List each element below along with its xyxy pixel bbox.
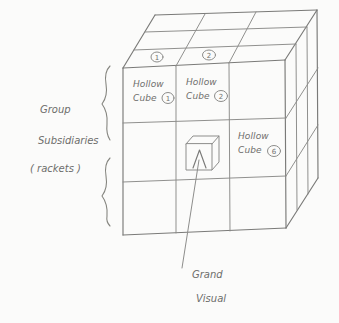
right-hline-2: [286, 125, 318, 176]
cell1-label-line1: Hollow: [133, 79, 164, 89]
bottom-caption-group: Grand Visual: [192, 269, 226, 304]
front-hline-1: [123, 118, 286, 123]
right-bottom-slant: [286, 178, 318, 228]
top-back-edge: [155, 10, 317, 15]
front-top-edge: [123, 60, 285, 68]
bottom-caption-line1: Grand: [192, 269, 223, 280]
right-back-vertical: [317, 10, 318, 178]
cube-sketch-svg: 1 2 Hollow Cube 1 Hollow Cube 2 Hollow C…: [0, 0, 339, 323]
bottom-caption-line2: Visual: [196, 293, 226, 304]
small-cube-right: [212, 136, 219, 170]
front-right-edge: [285, 60, 286, 228]
top-vline-2: [229, 12, 256, 63]
top-face-number-1: 1: [151, 52, 163, 62]
top-right-slant: [285, 10, 317, 60]
cube-right-face: [286, 10, 318, 228]
front-hline-2: [123, 176, 286, 182]
small-cube-front: [186, 144, 212, 170]
front-vline-2: [229, 63, 230, 231]
left-label-line3: ( rackets ): [30, 163, 81, 174]
left-label-line1: Group: [40, 104, 71, 115]
cell1-number: 1: [166, 95, 170, 103]
left-brace-lower: [102, 158, 110, 226]
top-hline-1: [134, 44, 296, 50]
cell6-label-line2: Cube: [238, 145, 262, 155]
cell-label-hollow-cube-2: Hollow Cube 2: [186, 77, 228, 102]
cell1-label-line2: Cube: [133, 93, 157, 103]
top-number-2-text: 2: [207, 52, 211, 60]
front-bottom-edge: [123, 228, 286, 235]
cell-label-hollow-cube-6: Hollow Cube 6: [238, 131, 281, 157]
small-cube-top: [186, 136, 219, 144]
small-cube-with-arrow-icon: [186, 136, 219, 170]
right-hline-1: [286, 68, 318, 118]
leader-line: [182, 160, 199, 268]
top-left-slant: [123, 15, 155, 68]
cell2-number: 2: [219, 93, 223, 101]
top-hline-2: [145, 27, 307, 32]
top-number-1-text: 1: [155, 54, 159, 62]
cell6-label-line1: Hollow: [238, 131, 269, 141]
left-brace-upper: [102, 66, 110, 140]
cell2-label-line2: Cube: [186, 91, 210, 101]
left-label-line2: Subsidiaries: [38, 135, 99, 146]
cell-label-hollow-cube-1: Hollow Cube 1: [133, 79, 174, 104]
cell6-number: 6: [272, 148, 277, 156]
right-vline-2: [307, 27, 308, 194]
right-vline-1: [296, 44, 297, 210]
cell2-label-line1: Hollow: [186, 77, 217, 87]
top-face-number-2: 2: [203, 50, 216, 60]
small-cube-arrow: [193, 150, 206, 168]
left-annotation-group: Group Subsidiaries ( rackets ): [30, 104, 99, 174]
top-vline-1: [176, 14, 205, 66]
sketch-canvas: 1 2 Hollow Cube 1 Hollow Cube 2 Hollow C…: [0, 0, 339, 323]
